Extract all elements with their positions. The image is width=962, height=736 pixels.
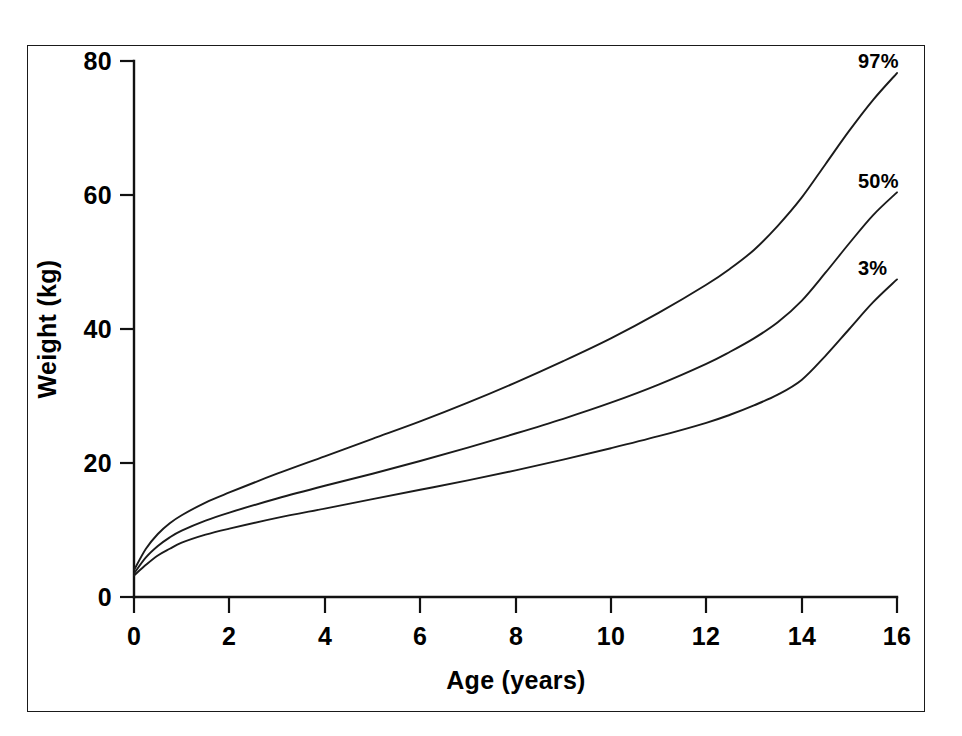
x-axis-title: Age (years): [446, 666, 585, 694]
curve-3-percentile: [134, 279, 897, 575]
percentile-curves: [134, 73, 897, 576]
x-tick-label-6: 6: [413, 622, 427, 650]
x-tick-label-10: 10: [597, 622, 625, 650]
x-tick-label-8: 8: [509, 622, 523, 650]
x-tick-label-14: 14: [788, 622, 816, 650]
y-tick-label-20: 20: [84, 449, 112, 477]
growth-chart-figure: 80 60 40 20 0 0 2 4 6 8 10 12 14 16 Age …: [0, 0, 962, 736]
y-axis-tick-labels: 80 60 40 20 0: [84, 47, 112, 611]
x-axis-ticks: [134, 597, 897, 613]
x-tick-label-0: 0: [127, 622, 141, 650]
y-tick-label-60: 60: [84, 181, 112, 209]
y-tick-label-0: 0: [98, 583, 112, 611]
curve-label-97: 97%: [858, 50, 899, 72]
curve-labels: 97% 50% 3%: [858, 50, 899, 279]
curve-label-3: 3%: [858, 257, 887, 279]
curve-97-percentile: [134, 73, 897, 570]
x-tick-label-4: 4: [318, 622, 332, 650]
chart-plot-area: 80 60 40 20 0 0 2 4 6 8 10 12 14 16 Age …: [0, 0, 962, 736]
x-tick-label-16: 16: [883, 622, 911, 650]
x-axis-tick-labels: 0 2 4 6 8 10 12 14 16: [127, 622, 911, 650]
x-tick-label-12: 12: [692, 622, 720, 650]
x-tick-label-2: 2: [222, 622, 236, 650]
y-axis-title: Weight (kg): [33, 260, 61, 399]
y-tick-label-40: 40: [84, 315, 112, 343]
curve-label-50: 50%: [858, 170, 899, 192]
y-tick-label-80: 80: [84, 47, 112, 75]
y-axis-ticks: [120, 61, 134, 597]
